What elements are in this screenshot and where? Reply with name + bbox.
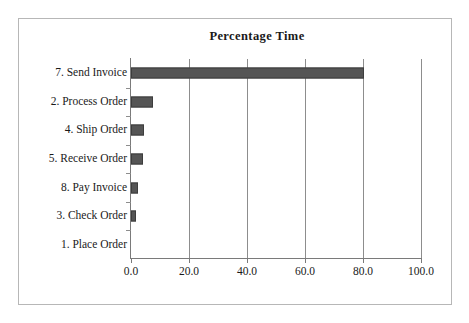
y-axis-tick-label: 2. Process Order	[0, 96, 127, 108]
bar-row	[131, 145, 421, 174]
bar-row	[131, 173, 421, 202]
y-axis-tick-label: 1. Place Order	[0, 239, 127, 251]
bar-row	[131, 59, 421, 88]
x-tick	[421, 258, 422, 263]
x-axis-tick-label: 60.0	[295, 265, 315, 277]
x-axis-tick-label: 80.0	[353, 265, 373, 277]
x-axis-tick-label: 100.0	[408, 265, 434, 277]
bar-row	[131, 230, 421, 259]
bar	[131, 211, 136, 222]
bar-row	[131, 202, 421, 231]
chart-figure: Percentage Time 7. Send Invoice2. Proces…	[18, 18, 452, 305]
x-axis-tick-label: 40.0	[237, 265, 257, 277]
y-axis-tick-label: 7. Send Invoice	[0, 68, 127, 80]
y-axis-tick-label: 3. Check Order	[0, 210, 127, 222]
bar	[131, 96, 153, 107]
bar	[131, 153, 143, 164]
y-axis-tick-label: 8. Pay Invoice	[0, 182, 127, 194]
plot-area: 7. Send Invoice2. Process Order4. Ship O…	[131, 59, 421, 259]
y-axis-tick-label: 4. Ship Order	[0, 125, 127, 137]
bar	[131, 182, 138, 193]
chart-title: Percentage Time	[19, 29, 451, 44]
bar	[131, 68, 364, 79]
x-axis-tick-label: 0.0	[124, 265, 138, 277]
bar-row	[131, 116, 421, 145]
x-axis-tick-label: 20.0	[179, 265, 199, 277]
bar-row	[131, 88, 421, 117]
y-axis-tick-label: 5. Receive Order	[0, 153, 127, 165]
gridline	[421, 59, 422, 259]
bar	[131, 125, 144, 136]
